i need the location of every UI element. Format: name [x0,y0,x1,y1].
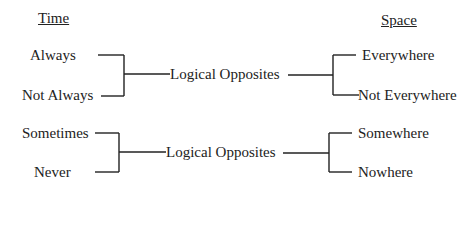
time-not-always: Not Always [22,86,93,104]
logical-opposites-label-2: Logical Opposites [166,143,276,161]
logical-opposites-label-1: Logical Opposites [170,65,280,83]
space-nowhere: Nowhere [358,163,413,181]
time-sometimes: Sometimes [22,124,89,142]
space-somewhere: Somewhere [358,124,429,142]
space-not-everywhere: Not Everywhere [358,86,457,104]
space-everywhere: Everywhere [362,46,434,64]
time-always: Always [30,46,76,64]
time-never: Never [34,163,71,181]
